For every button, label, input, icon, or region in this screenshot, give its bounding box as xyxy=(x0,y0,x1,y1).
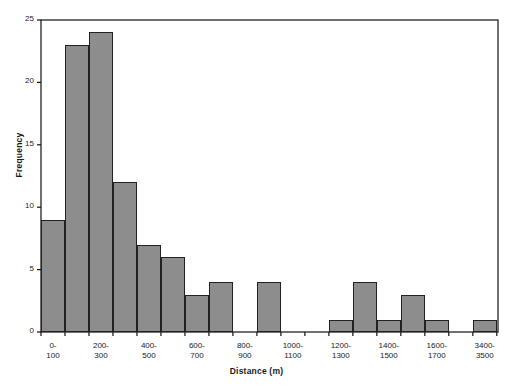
histogram-bar xyxy=(137,245,161,332)
x-tick-label: 1400- 1500 xyxy=(363,341,415,361)
histogram-bar xyxy=(209,282,233,332)
x-axis-title: Distance (m) xyxy=(0,366,513,376)
x-tick-label: 400- 500 xyxy=(123,341,175,361)
histogram-bar xyxy=(161,257,185,332)
histogram-bar xyxy=(65,45,89,332)
histogram-bar xyxy=(353,282,377,332)
histogram-bar xyxy=(89,32,113,332)
histogram-chart: 0510152025 0- 100200- 300400- 500600- 70… xyxy=(0,0,513,388)
x-tick-label: 3400- 3500 xyxy=(459,341,511,361)
histogram-bar xyxy=(473,320,497,332)
x-tick-label: 1200- 1300 xyxy=(315,341,367,361)
x-tick-label: 800- 900 xyxy=(219,341,271,361)
y-tick-label: 5 xyxy=(14,265,34,273)
x-tick-label: 1600- 1700 xyxy=(411,341,463,361)
x-tick-label: 1000- 1100 xyxy=(267,341,319,361)
y-tick-label: 20 xyxy=(14,77,34,85)
histogram-bar xyxy=(329,320,353,332)
histogram-bar xyxy=(113,182,137,332)
x-tick-label: 200- 300 xyxy=(75,341,127,361)
y-tick-label: 0 xyxy=(14,327,34,335)
y-tick-label: 25 xyxy=(14,15,34,23)
y-axis-title: Frequency xyxy=(14,105,24,205)
histogram-bar xyxy=(377,320,401,332)
histogram-bar xyxy=(41,220,65,332)
histogram-bar xyxy=(425,320,449,332)
histogram-bar xyxy=(401,295,425,332)
x-tick-label: 0- 100 xyxy=(27,341,79,361)
x-tick-label: 600- 700 xyxy=(171,341,223,361)
histogram-bar xyxy=(257,282,281,332)
histogram-bar xyxy=(185,295,209,332)
